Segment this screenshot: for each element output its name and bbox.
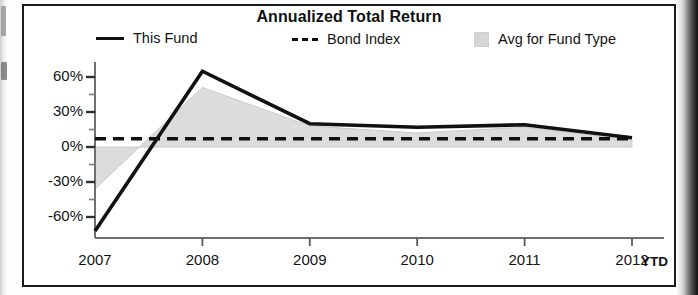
y-axis-tick-label: 60% — [17, 67, 83, 84]
chart-screenshot: Annualized Total Return This Fund Bond I… — [0, 0, 698, 295]
scan-edge-artifact-right — [676, 0, 698, 295]
x-axis-tick-label: 2010 — [381, 251, 453, 268]
x-axis-tick-label: 2008 — [166, 251, 238, 268]
axis-lines — [86, 62, 664, 246]
plot-area: 60%30%0%-30%-60% 20072008200920102011201… — [24, 6, 678, 289]
y-axis-tick-label: 0% — [17, 137, 83, 154]
x-axis-tick-label: 2007 — [59, 251, 131, 268]
scan-speckle — [1, 62, 7, 80]
ytd-note: YTD — [641, 254, 668, 269]
scan-speckle — [1, 6, 6, 36]
y-axis-ticks — [86, 77, 95, 217]
chart-frame: Annualized Total Return This Fund Bond I… — [22, 4, 676, 287]
y-axis-tick-label: 30% — [17, 102, 83, 119]
plot-canvas — [24, 6, 678, 289]
scan-edge-artifact-left — [0, 0, 8, 295]
x-axis-tick-label: 2011 — [489, 251, 561, 268]
x-axis-tick-label: 2009 — [274, 251, 346, 268]
y-axis-tick-label: -30% — [17, 172, 83, 189]
line-series-this-fund — [95, 71, 632, 231]
x-axis-ticks — [202, 238, 632, 246]
y-axis-tick-label: -60% — [17, 207, 83, 224]
